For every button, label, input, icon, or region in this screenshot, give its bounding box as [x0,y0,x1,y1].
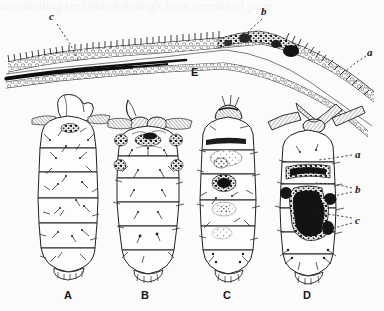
section-callout-label-a: a [367,46,373,58]
larva-d-callout-label-b: b [355,183,361,195]
panel-letter-C: C [223,289,231,301]
scientific-plate-illustration [0,0,384,311]
section-callout-label-b: b [261,5,267,17]
panel-letter-A: A [64,289,72,301]
larva-B [108,100,192,283]
panel-letter-B: B [141,289,149,301]
larva-d-callout-label-c: c [355,214,360,226]
section-callout-label-c: c [49,10,54,22]
panel-letter-D: D [303,289,311,301]
larva-d-callout-label-a: a [355,148,361,160]
larva-C [197,95,260,283]
section-label-E: E [191,66,198,78]
larva-A [32,95,110,281]
larva-D [268,103,365,285]
